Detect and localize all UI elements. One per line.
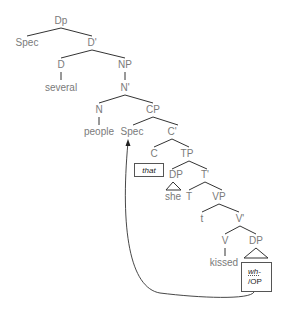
node-dp-subject: DP <box>169 169 183 181</box>
node-d-bar: D' <box>87 37 96 49</box>
node-np: NP <box>118 59 132 71</box>
node-tp: TP <box>181 148 194 160</box>
node-t-bar: T' <box>201 169 209 181</box>
word-kissed: kissed <box>210 257 238 269</box>
node-c-bar: C' <box>167 126 176 138</box>
word-she: she <box>165 191 181 203</box>
word-that: that <box>142 166 155 175</box>
node-t: T <box>186 191 192 203</box>
word-people: people <box>84 126 114 138</box>
node-n: N <box>95 104 102 116</box>
that-box: that <box>134 163 164 177</box>
node-dp-object: DP <box>249 235 263 247</box>
word-wh: wh- <box>248 267 271 277</box>
node-c: C <box>150 148 157 160</box>
node-n-bar: N' <box>120 82 129 94</box>
node-cp: CP <box>146 104 160 116</box>
word-several: several <box>45 82 77 94</box>
word-op: /OP <box>248 277 271 287</box>
node-v-bar: V' <box>236 213 245 225</box>
trace-t: t <box>201 213 204 225</box>
node-spec-top: Spec <box>16 37 39 49</box>
node-d: D <box>57 59 64 71</box>
node-spec-cp: Spec <box>121 126 144 138</box>
node-vp: VP <box>212 191 225 203</box>
node-dp-root: Dp <box>55 15 68 27</box>
node-v: V <box>222 235 229 247</box>
wh-op-box: wh- /OP <box>241 262 272 292</box>
